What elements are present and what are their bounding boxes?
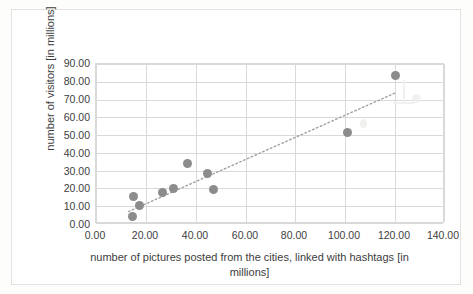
x-axis-tick-labels: 0.00 20.00 40.00 60.00 80.00 100.00 120.… bbox=[12, 229, 473, 243]
y-tick-30: 30.00 bbox=[44, 166, 90, 177]
data-point bbox=[183, 159, 192, 168]
data-point bbox=[209, 185, 218, 194]
plot-area bbox=[95, 63, 444, 223]
chart-frame: number of visitors [in millions] 90.00 8… bbox=[11, 9, 461, 285]
scanned-page-background: number of visitors [in millions] 90.00 8… bbox=[0, 0, 473, 294]
data-point bbox=[203, 169, 212, 178]
x-tick-0: 0.00 bbox=[67, 229, 123, 241]
trendline bbox=[96, 64, 445, 224]
x-tick-40: 40.00 bbox=[167, 229, 223, 241]
y-tick-80: 80.00 bbox=[44, 76, 90, 87]
data-point bbox=[169, 184, 178, 193]
y-tick-50: 50.00 bbox=[44, 130, 90, 141]
y-tick-20: 20.00 bbox=[44, 183, 90, 194]
x-tick-20: 20.00 bbox=[117, 229, 173, 241]
x-tick-120: 120.00 bbox=[366, 229, 422, 241]
y-tick-40: 40.00 bbox=[44, 148, 90, 159]
x-tick-100: 100.00 bbox=[316, 229, 372, 241]
y-tick-90: 90.00 bbox=[44, 58, 90, 69]
x-tick-140: 140.00 bbox=[415, 229, 471, 241]
data-point bbox=[128, 212, 137, 221]
x-tick-80: 80.00 bbox=[266, 229, 322, 241]
data-point bbox=[129, 192, 138, 201]
data-point bbox=[391, 71, 400, 80]
y-tick-10: 10.00 bbox=[44, 201, 90, 212]
y-axis-title-container: number of visitors [in millions] bbox=[12, 10, 42, 294]
y-tick-60: 60.00 bbox=[44, 112, 90, 123]
x-axis-title: number of pictures posted from the citie… bbox=[72, 250, 427, 280]
data-point bbox=[158, 188, 167, 197]
y-tick-70: 70.00 bbox=[44, 94, 90, 105]
x-tick-60: 60.00 bbox=[217, 229, 273, 241]
